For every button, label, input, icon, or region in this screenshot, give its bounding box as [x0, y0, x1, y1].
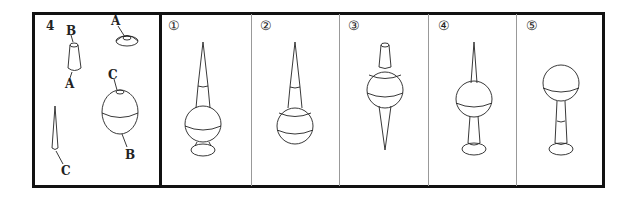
spike-cone-part: [52, 106, 63, 164]
sphere-part: [102, 79, 138, 147]
truncated-cone-part: [68, 35, 81, 78]
figures-drawing: [0, 0, 639, 202]
figure-option-3: [367, 43, 403, 150]
figure-option-5: [543, 65, 579, 155]
figure-option-1: [185, 42, 221, 156]
figure-option-4: [456, 42, 492, 155]
figure-option-2: [277, 42, 313, 144]
dome-cap-part: [116, 26, 138, 46]
